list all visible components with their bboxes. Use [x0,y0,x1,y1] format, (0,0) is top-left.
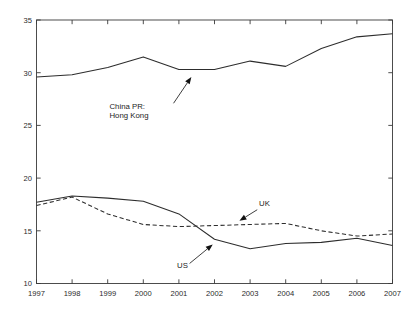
data-series-group [37,34,393,249]
plot-frame-border [37,20,393,284]
x-axis-ticks [37,20,393,284]
chart-figure: 1997199819992000200120022003200420052006… [0,0,417,316]
uk-annotation-text: UK [259,199,271,208]
x-tick-label: 2006 [348,289,365,298]
series-line-uk [37,197,393,236]
y-tick-label: 30 [24,69,32,78]
x-tick-label: 1999 [99,289,116,298]
y-tick-label: 20 [24,174,32,183]
x-axis-tick-labels: 1997199819992000200120022003200420052006… [28,289,401,298]
x-tick-label: 2001 [170,289,187,298]
x-tick-label: 2007 [384,289,401,298]
series-line-china-pr-hong-kong [37,34,393,77]
china-hk-annotation-text: China PR: [109,102,145,111]
uk-annotation-arrowhead [239,215,246,221]
y-tick-label: 15 [24,227,32,236]
series-line-us [37,196,393,249]
x-tick-label: 2004 [277,289,294,298]
x-tick-label: 2000 [135,289,152,298]
axes-frame [37,20,393,284]
x-tick-label: 2005 [313,289,330,298]
y-tick-label: 10 [24,279,32,288]
china-hk-annotation-leader-line [174,83,188,104]
y-tick-label: 25 [24,121,32,130]
y-tick-label: 35 [24,16,32,25]
us-annotation-leader-line [190,249,208,264]
y-axis-ticks [37,20,393,284]
y-axis-tick-labels: 101520253035 [24,16,32,289]
us-annotation-arrowhead [206,245,213,252]
line-chart-canvas: 1997199819992000200120022003200420052006… [0,0,417,316]
x-tick-label: 1997 [28,289,45,298]
china-hk-annotation-text: Hong Kong [109,111,148,120]
china-hk-annotation-arrowhead [185,77,191,84]
uk-annotation-leader-line [245,210,257,217]
x-tick-label: 2002 [206,289,223,298]
x-tick-label: 2003 [242,289,259,298]
us-annotation-text: US [177,261,188,270]
x-tick-label: 1998 [64,289,81,298]
series-annotations-group: China PR:Hong KongUSUK [109,77,270,270]
